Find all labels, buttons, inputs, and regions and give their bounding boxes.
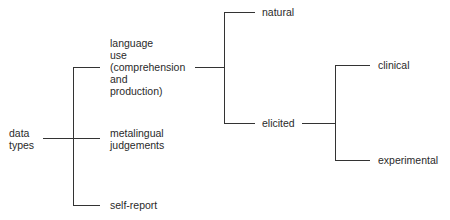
node-metalingual-judgements: metalingual judgements [110,127,164,151]
node-natural: natural [262,6,294,18]
tree-connectors [0,0,450,220]
node-experimental: experimental [378,154,438,166]
node-data-types: data types [9,127,34,151]
node-self-report: self-report [110,199,157,211]
node-elicited: elicited [262,117,295,129]
node-language-use: language use (comprehension and producti… [110,37,185,97]
node-clinical: clinical [378,59,410,71]
